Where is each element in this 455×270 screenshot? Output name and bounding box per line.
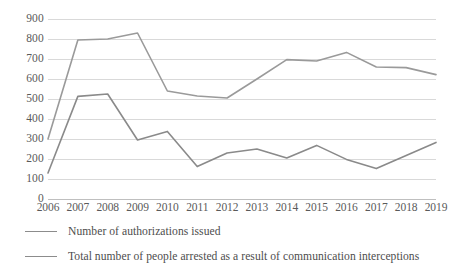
x-tick-label-2019: 2019	[425, 201, 448, 214]
x-axis: 2006200720082009201020112012201320142015…	[48, 201, 436, 217]
series-line-2	[48, 94, 436, 173]
x-tick-label-2011: 2011	[186, 201, 208, 214]
legend-swatch-icon	[25, 256, 57, 257]
y-tick-label-200: 200	[0, 153, 44, 165]
y-axis: 9008007006005004003002001000	[0, 0, 44, 219]
y-tick-label-800: 800	[0, 33, 44, 45]
y-tick-label-700: 700	[0, 53, 44, 65]
series-line-1	[48, 33, 436, 139]
x-tick-label-2017: 2017	[365, 201, 388, 214]
x-tick-label-2008: 2008	[96, 201, 119, 214]
x-tick-label-2010: 2010	[156, 201, 179, 214]
series-container	[48, 19, 436, 199]
legend-swatch-icon	[25, 231, 57, 232]
x-tick-label-2006: 2006	[37, 201, 60, 214]
plot-area	[48, 19, 436, 199]
y-tick-label-500: 500	[0, 93, 44, 105]
legend-item-label: Total number of people arrested as a res…	[68, 250, 419, 263]
x-tick-label-2018: 2018	[395, 201, 418, 214]
x-tick-label-2013: 2013	[246, 201, 269, 214]
x-tick-label-2007: 2007	[67, 201, 90, 214]
y-tick-label-400: 400	[0, 113, 44, 125]
y-tick-label-300: 300	[0, 133, 44, 145]
legend-item-arrested[interactable]: Total number of people arrested as a res…	[0, 244, 455, 269]
y-tick-label-100: 100	[0, 173, 44, 185]
chart-legend: Number of authorizations issued Total nu…	[0, 219, 455, 270]
line-chart: 9008007006005004003002001000 20062007200…	[0, 0, 455, 270]
x-tick-label-2014: 2014	[275, 201, 298, 214]
x-tick-label-2009: 2009	[126, 201, 149, 214]
legend-item-authorizations[interactable]: Number of authorizations issued	[0, 219, 455, 244]
x-tick-label-2016: 2016	[335, 201, 358, 214]
y-tick-label-900: 900	[0, 13, 44, 25]
y-tick-label-600: 600	[0, 73, 44, 85]
x-tick-label-2012: 2012	[216, 201, 239, 214]
legend-item-label: Number of authorizations issued	[68, 225, 221, 238]
gridline-0	[48, 199, 436, 200]
x-tick-label-2015: 2015	[305, 201, 328, 214]
